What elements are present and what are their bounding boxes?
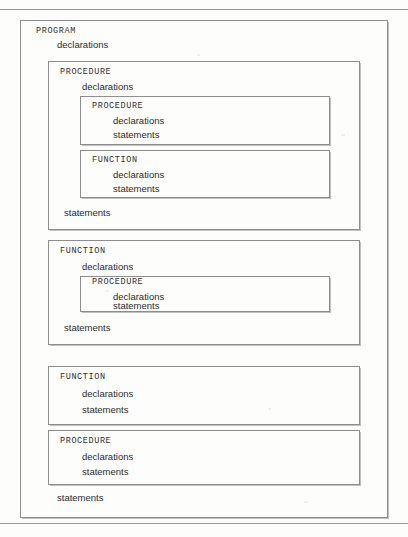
procedure-1-1-keyword: PROCEDURE xyxy=(92,101,143,111)
procedure-2-1-keyword: PROCEDURE xyxy=(92,277,143,287)
program-statements: statements xyxy=(57,492,103,503)
function-3-declarations: declarations xyxy=(82,388,133,399)
function-2-statements: statements xyxy=(64,322,110,333)
function-1-2-statements: statements xyxy=(113,183,159,194)
procedure-1-declarations: declarations xyxy=(82,81,133,92)
function-1-2-keyword: FUNCTION xyxy=(92,155,138,165)
function-1-2-declarations: declarations xyxy=(113,169,164,180)
procedure-4-declarations: declarations xyxy=(82,451,133,462)
procedure-2-1-statements: statements xyxy=(113,300,159,311)
function-2-declarations: declarations xyxy=(82,261,133,272)
function-2-keyword: FUNCTION xyxy=(60,246,106,256)
procedure-1-keyword: PROCEDURE xyxy=(60,67,111,77)
procedure-1-1-declarations: declarations xyxy=(113,115,164,126)
page-rule-top xyxy=(0,9,408,10)
procedure-1-1-statements: statements xyxy=(113,129,159,140)
page-rule-bottom xyxy=(0,523,408,524)
program-declarations: declarations xyxy=(57,39,108,50)
scanned-diagram-page: { "page": { "background_color": "#fdfdfc… xyxy=(0,0,408,537)
procedure-1-statements: statements xyxy=(64,207,110,218)
program-keyword: PROGRAM xyxy=(36,26,76,36)
function-3-statements: statements xyxy=(82,404,128,415)
function-3-keyword: FUNCTION xyxy=(60,372,106,382)
procedure-4-statements: statements xyxy=(82,466,128,477)
procedure-4-keyword: PROCEDURE xyxy=(60,436,111,446)
